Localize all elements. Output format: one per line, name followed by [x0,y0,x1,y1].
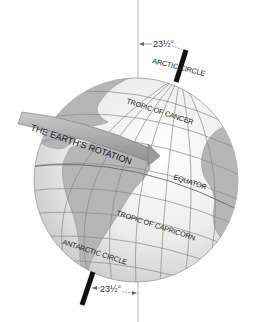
globe [20,58,260,305]
earth-axis-bottom [82,272,93,305]
tilt-angle-bottom: 23½° [92,284,137,295]
tilt-top-label: 23½° [153,39,175,49]
tilt-angle-top: 23½° [139,39,183,50]
tilt-bottom-label: 23½° [100,284,122,294]
earth-tilt-diagram: 23½° 23½° THE EARTH'S ROTATION ARCTIC CI… [0,0,266,322]
